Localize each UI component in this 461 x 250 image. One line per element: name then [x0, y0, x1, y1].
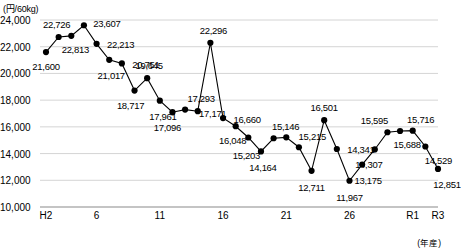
data-point-marker — [106, 57, 112, 63]
data-point-marker — [68, 33, 74, 39]
data-point-label: 16,048 — [219, 135, 246, 146]
data-point-marker — [271, 135, 277, 141]
data-point-label: 21,017 — [98, 69, 125, 80]
data-point-label: 17,293 — [187, 92, 214, 103]
data-point-label: 22,726 — [43, 19, 70, 30]
data-point-label: 21,600 — [32, 61, 59, 72]
data-point-label: 23,607 — [93, 18, 120, 29]
data-point-label: 15,203 — [233, 149, 260, 160]
data-point-label: 17,171 — [199, 108, 226, 119]
data-point-marker — [384, 129, 390, 135]
data-point-marker — [346, 178, 352, 184]
data-point-label: 11,967 — [336, 191, 363, 202]
data-point-label: 18,717 — [117, 99, 144, 110]
data-point-marker — [296, 144, 302, 150]
data-point-marker — [435, 166, 441, 172]
data-point-label: 15,716 — [407, 113, 434, 124]
data-point-marker — [157, 98, 163, 104]
data-point-label: 15,688 — [393, 139, 420, 150]
data-point-marker — [81, 22, 87, 28]
data-point-marker — [321, 117, 327, 123]
data-point-label: 15,146 — [272, 121, 299, 132]
data-point-label: 22,296 — [200, 24, 227, 35]
data-point-marker — [93, 41, 99, 47]
data-point-label: 22,213 — [107, 38, 134, 49]
data-point-marker — [397, 128, 403, 134]
data-point-label: 16,660 — [233, 114, 260, 125]
data-point-marker — [283, 134, 289, 140]
data-point-label: 12,711 — [298, 181, 325, 192]
data-point-marker — [334, 146, 340, 152]
data-point-marker — [422, 143, 428, 149]
data-point-marker — [207, 40, 213, 46]
data-point-label: 12,851 — [433, 178, 460, 189]
data-point-marker — [308, 168, 314, 174]
data-point-label: 22,813 — [62, 43, 89, 54]
data-point-label: 14,341 — [347, 144, 374, 155]
data-point-label: 15,215 — [299, 131, 326, 142]
data-point-label: 17,961 — [149, 110, 176, 121]
data-point-marker — [410, 128, 416, 134]
data-point-label: 15,595 — [361, 115, 388, 126]
data-point-marker — [56, 34, 62, 40]
data-point-label: 14,307 — [355, 159, 382, 170]
data-point-label: 17,096 — [154, 122, 181, 133]
data-point-marker — [119, 60, 125, 66]
data-point-label: 19,645 — [136, 60, 163, 71]
data-point-label: 13,175 — [354, 174, 381, 185]
data-point-marker — [43, 49, 49, 55]
data-point-label: 14,529 — [425, 154, 452, 165]
data-point-label: 14,164 — [249, 162, 276, 173]
data-point-marker — [144, 75, 150, 81]
data-point-marker — [131, 87, 137, 93]
data-point-marker — [182, 106, 188, 112]
data-point-label: 16,501 — [311, 102, 338, 113]
